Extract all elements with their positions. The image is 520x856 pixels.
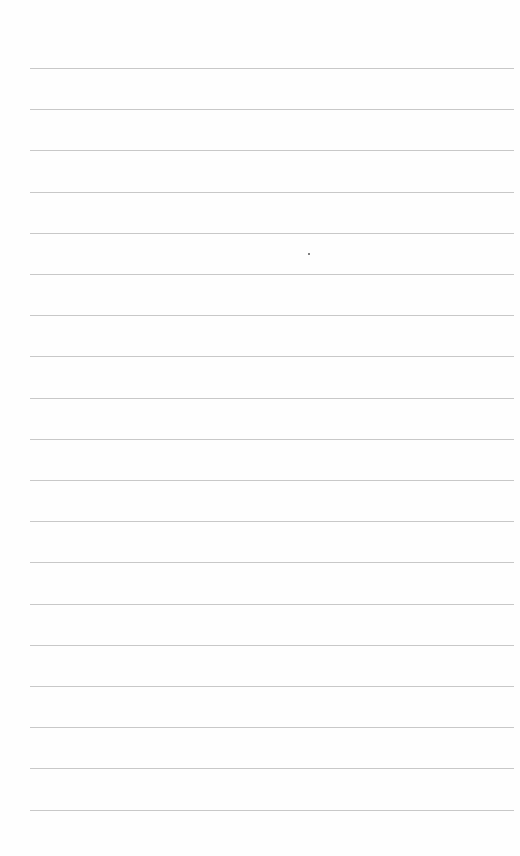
ruled-line (30, 398, 514, 399)
ruled-line (30, 810, 514, 811)
ruled-line (30, 109, 514, 110)
ruled-line (30, 521, 514, 522)
ruled-line (30, 233, 514, 234)
lined-page (0, 0, 520, 856)
ruled-line (30, 150, 514, 151)
ruled-line (30, 686, 514, 687)
ruled-line (30, 604, 514, 605)
ink-dot (308, 253, 310, 255)
ruled-line (30, 315, 514, 316)
ruled-line (30, 727, 514, 728)
ruled-line (30, 439, 514, 440)
ruled-line (30, 68, 514, 69)
ruled-line (30, 192, 514, 193)
ruled-line (30, 645, 514, 646)
ruled-line (30, 274, 514, 275)
ruled-line (30, 768, 514, 769)
ruled-line (30, 480, 514, 481)
ruled-line (30, 356, 514, 357)
ruled-line (30, 562, 514, 563)
